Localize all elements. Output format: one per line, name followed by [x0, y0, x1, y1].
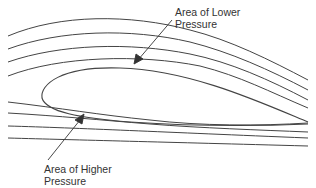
streamline-lower-3 — [8, 126, 308, 138]
label-line: Pressure — [175, 18, 240, 30]
label-higher-pressure: Area of Higher Pressure — [44, 163, 112, 187]
label-line: Area of Higher — [44, 163, 112, 175]
label-lower-pressure: Area of Lower Pressure — [175, 6, 240, 30]
streamline-upper-2 — [8, 33, 308, 90]
label-line: Area of Lower — [175, 6, 240, 18]
streamline-upper-4 — [8, 59, 308, 108]
label-line: Pressure — [44, 175, 112, 187]
streamline-lower-1 — [8, 102, 308, 125]
arrow-lower-pressure — [138, 20, 172, 60]
streamline-upper-3 — [8, 46, 308, 100]
streamline-lower-4 — [8, 138, 308, 146]
streamline-lower-2 — [8, 113, 308, 132]
airfoil-diagram — [0, 0, 316, 188]
